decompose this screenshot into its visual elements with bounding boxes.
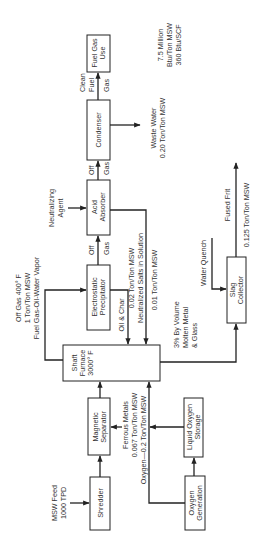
condenser-label: Condenser (94, 112, 103, 148)
process-flow-diagram: Shredder Magnetic Separator Shaft Furnac… (0, 0, 261, 548)
svg-text:Precipitator: Precipitator (98, 278, 107, 315)
water-quench-line (212, 238, 226, 289)
svg-text:Ferrous Metals: Ferrous Metals (121, 401, 130, 449)
energy-content-label: 7.5 Million Btu/Ton MSW 360 Btu/SCF (156, 23, 183, 67)
svg-text:Condenser: Condenser (94, 112, 103, 148)
svg-text:3000° F: 3000° F (86, 350, 95, 376)
magnetic-separator-label: Magnetic Separator (91, 411, 108, 443)
shredder-label: Shredder (96, 488, 105, 518)
svg-text:Absorber: Absorber (98, 192, 107, 222)
svg-text:3% By Volume: 3% By Volume (172, 301, 181, 348)
svg-text:Oxygen—0.2 Ton/Ton MSW: Oxygen—0.2 Ton/Ton MSW (139, 396, 148, 485)
svg-text:7.5 Million: 7.5 Million (156, 29, 165, 61)
svg-text:0.01 Ton/Ton MSW: 0.01 Ton/Ton MSW (150, 249, 159, 310)
svg-text:1000 TPD: 1000 TPD (59, 487, 68, 519)
svg-text:Off: Off (87, 166, 96, 175)
svg-text:Gas: Gas (102, 241, 111, 255)
svg-text:Fuel Gas-Oil-Water Vapor: Fuel Gas-Oil-Water Vapor (32, 256, 41, 339)
svg-text:Gas: Gas (102, 161, 111, 175)
svg-text:Storage: Storage (193, 414, 202, 439)
svg-text:360 Btu/SCF: 360 Btu/SCF (174, 24, 183, 66)
svg-text:Gas: Gas (102, 78, 111, 92)
ferrous-metals-label: Ferrous Metals 0.067 Ton/Ton MSW (121, 392, 139, 457)
svg-text:0.02 Ton/Ton MSW: 0.02 Ton/Ton MSW (127, 247, 136, 308)
svg-text:Separator: Separator (99, 411, 108, 443)
svg-text:1 Ton/Ton MSW: 1 Ton/Ton MSW (23, 272, 32, 323)
svg-text:Generation: Generation (195, 485, 204, 521)
svg-text:MSW Feed: MSW Feed (50, 485, 59, 521)
waste-water-label: Waste Water 0.20 Ton/Ton MSW (149, 97, 167, 158)
offgas-absorber-label: Off Gas (87, 161, 111, 175)
frit-rate-label: 0.125 Ton/Ton MSW (242, 182, 251, 247)
svg-text:Neutralizing: Neutralizing (47, 189, 56, 227)
svg-text:0.067 Ton/Ton MSW: 0.067 Ton/Ton MSW (130, 392, 139, 457)
oil-char-label: Oil & Char (117, 298, 126, 332)
precipitator-label: Electrostatic Precipitator (90, 277, 107, 317)
svg-text:Oil & Char: Oil & Char (117, 298, 126, 332)
svg-text:Water Quench: Water Quench (199, 240, 208, 286)
furnace-offgas-label: Off Gas 400° F 1 Ton/Ton MSW Fuel Gas-Oi… (14, 256, 41, 339)
msw-feed-label: MSW Feed 1000 TPD (50, 485, 68, 521)
svg-text:Clean: Clean (78, 73, 87, 92)
clean-fuel-gas-label: Clean Fuel Gas (78, 73, 111, 92)
neutralized-salts-label: 0.02 Ton/Ton MSW Neutralized Salts in So… (127, 233, 145, 323)
svg-text:Neutralized Salts in Solution: Neutralized Salts in Solution (136, 233, 145, 323)
svg-text:Waste Water: Waste Water (149, 107, 158, 149)
svg-text:Shredder: Shredder (96, 488, 105, 518)
svg-text:Fused Frit: Fused Frit (223, 189, 232, 221)
svg-text:Fuel: Fuel (87, 78, 96, 92)
svg-text:& Glass: & Glass (190, 322, 199, 348)
svg-text:Collector: Collector (236, 275, 245, 304)
svg-text:Off Gas 400° F: Off Gas 400° F (14, 273, 23, 321)
oxygen-flow-label: Oxygen—0.2 Ton/Ton MSW (139, 396, 148, 485)
svg-text:0.125 Ton/Ton MSW: 0.125 Ton/Ton MSW (242, 182, 251, 247)
svg-text:Off: Off (87, 246, 96, 255)
svg-text:Use: Use (98, 47, 107, 60)
svg-text:0.20 Ton/Ton MSW: 0.20 Ton/Ton MSW (158, 97, 167, 158)
fused-frit-label: Fused Frit (223, 189, 232, 221)
svg-text:Molten Metal: Molten Metal (181, 306, 190, 348)
svg-text:Btu/Ton MSW: Btu/Ton MSW (165, 23, 174, 67)
minor-flow-label: 0.01 Ton/Ton MSW (150, 249, 159, 310)
neutralizing-agent-label: Neutralizing Agent (47, 189, 65, 227)
svg-text:Agent: Agent (56, 199, 65, 218)
oxygen-line (149, 382, 185, 503)
offgas-precip-label: Off Gas (87, 241, 111, 255)
water-quench-label: Water Quench (199, 240, 208, 286)
molten-metal-glass-label: 3% By Volume Molten Metal & Glass (172, 301, 199, 348)
